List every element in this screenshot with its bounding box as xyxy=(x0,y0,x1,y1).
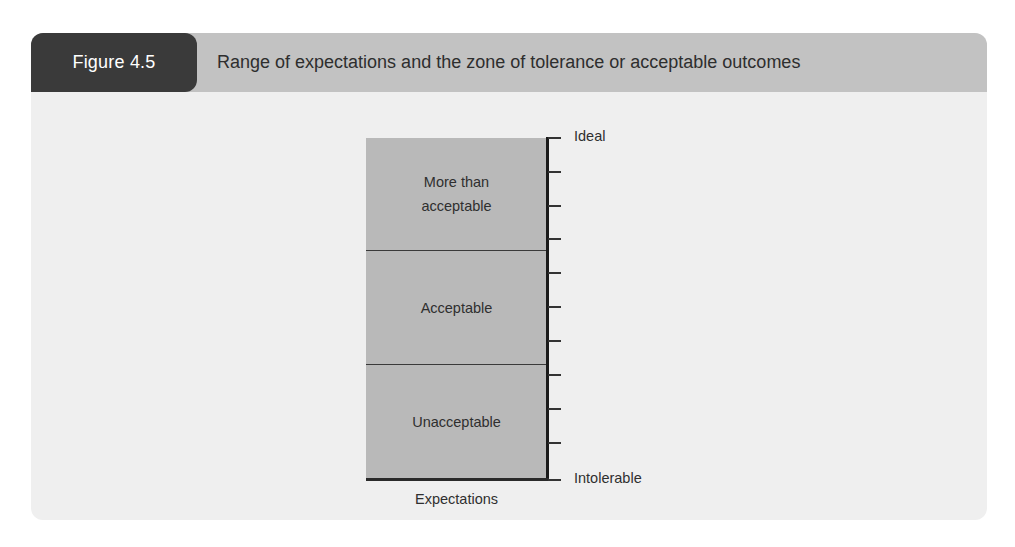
axis-tick xyxy=(548,272,561,274)
zone-label: Acceptable xyxy=(421,296,493,320)
axis-tick xyxy=(548,205,561,207)
zone-unacceptable: Unacceptable xyxy=(366,365,547,479)
axis-tick xyxy=(548,171,561,173)
zone-more-than-acceptable: More than acceptable xyxy=(366,138,547,250)
baseline xyxy=(366,478,549,481)
axis-tick xyxy=(548,479,561,481)
expectation-axis xyxy=(546,137,549,481)
axis-tick xyxy=(548,137,561,139)
zone-label: Unacceptable xyxy=(412,410,501,434)
axis-tick xyxy=(548,374,561,376)
axis-label-intolerable: Intolerable xyxy=(574,470,642,486)
axis-tick xyxy=(548,408,561,410)
figure-number-label: Figure 4.5 xyxy=(31,33,197,92)
zone-label-line2: acceptable xyxy=(421,194,491,218)
zone-label-line1: More than xyxy=(421,170,491,194)
axis-tick xyxy=(548,442,561,444)
axis-tick xyxy=(548,306,561,308)
figure-title: Range of expectations and the zone of to… xyxy=(217,33,800,92)
zone-acceptable: Acceptable xyxy=(366,251,547,364)
axis-tick xyxy=(548,340,561,342)
x-axis-label-expectations: Expectations xyxy=(366,491,547,507)
axis-tick xyxy=(548,238,561,240)
axis-label-ideal: Ideal xyxy=(574,128,605,144)
